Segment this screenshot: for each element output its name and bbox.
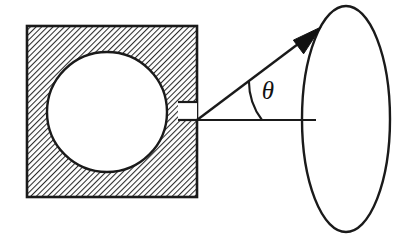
theta-angle-arc (249, 81, 262, 120)
hatched-square-block-group (27, 26, 197, 197)
circular-cavity (47, 52, 167, 172)
figure-canvas: θ (0, 0, 417, 245)
physics-figure: θ (0, 0, 417, 245)
aperture-slit (178, 102, 197, 120)
theta-symbol: θ (262, 77, 274, 104)
aperture-group (178, 102, 197, 120)
emission-ray (197, 32, 314, 120)
ray-arrowhead (293, 27, 321, 54)
